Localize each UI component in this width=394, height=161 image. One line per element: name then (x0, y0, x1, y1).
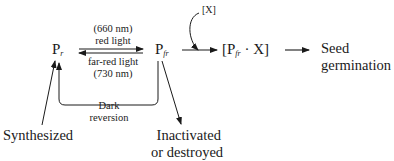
inactivation-arrow (162, 61, 181, 124)
node-pr: Pr (52, 41, 63, 58)
synthesized-label: Synthesized (3, 127, 73, 144)
node-complex: [Pfr · X] (222, 41, 269, 58)
dark-reversion-label: Dark reversion (82, 100, 136, 124)
red-light-label: (660 nm) red light (86, 23, 140, 47)
far-red-light-label: far-red light (730 nm) (82, 56, 144, 80)
node-pfr: Pfr (155, 41, 169, 58)
seed-germination-label: Seed germination (321, 40, 391, 74)
synthesis-arrow (42, 61, 55, 125)
x-reagent-label: [X] (202, 4, 216, 16)
inactivated-label: Inactivated or destroyed (151, 127, 221, 161)
x-input-curve (190, 13, 199, 50)
